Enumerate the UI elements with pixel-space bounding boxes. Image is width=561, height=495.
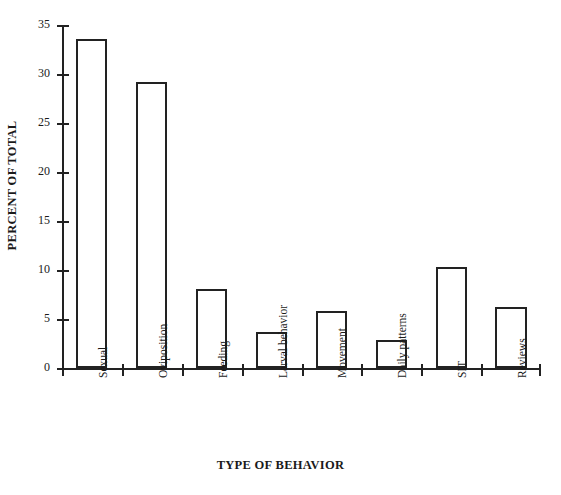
- y-tick-15: [57, 221, 69, 223]
- x-tick-label-5: Daily patterns: [396, 313, 408, 378]
- x-tick-label-6: SIT: [456, 361, 468, 378]
- y-tick-label-30: 30: [24, 66, 50, 81]
- x-axis-title-label: TYPE OF BEHAVIOR: [217, 458, 345, 472]
- x-tick-label-7: Reviews: [516, 338, 528, 378]
- bar-chart-figure: PERCENT OF TOTAL 05101520253035SexualOvi…: [0, 0, 561, 495]
- x-tick-label-1: Oviposition: [157, 324, 169, 378]
- y-tick-label-15: 15: [24, 213, 50, 228]
- x-boundary-tick-1: [122, 364, 124, 376]
- bar-0: [76, 39, 107, 368]
- y-tick-20: [57, 172, 69, 174]
- y-tick-label-20: 20: [24, 164, 50, 179]
- x-boundary-tick-5: [361, 364, 363, 376]
- x-tick-label-0: Sexual: [97, 347, 109, 378]
- x-boundary-tick-3: [242, 364, 244, 376]
- x-boundary-tick-7: [481, 364, 483, 376]
- y-tick-label-0: 0: [24, 360, 50, 375]
- x-tick-label-2: Feeding: [217, 341, 229, 378]
- y-tick-35: [57, 25, 69, 27]
- x-boundary-tick-2: [182, 364, 184, 376]
- y-tick-label-5: 5: [24, 311, 50, 326]
- x-axis-title: TYPE OF BEHAVIOR: [0, 458, 561, 473]
- x-tick-label-3: Larval behavior: [277, 305, 289, 378]
- x-boundary-tick-4: [302, 364, 304, 376]
- y-tick-label-35: 35: [24, 17, 50, 32]
- x-boundary-tick-6: [421, 364, 423, 376]
- x-axis-end-tick: [539, 364, 541, 376]
- y-tick-10: [57, 270, 69, 272]
- y-tick-5: [57, 319, 69, 321]
- x-axis-start-tick: [62, 364, 64, 376]
- y-tick-30: [57, 74, 69, 76]
- y-tick-label-25: 25: [24, 115, 50, 130]
- x-tick-label-4: Movement: [336, 328, 348, 378]
- y-tick-label-10: 10: [24, 262, 50, 277]
- plot-area: 05101520253035SexualOvipositionFeedingLa…: [0, 0, 561, 495]
- bar-6: [436, 267, 467, 368]
- y-tick-25: [57, 123, 69, 125]
